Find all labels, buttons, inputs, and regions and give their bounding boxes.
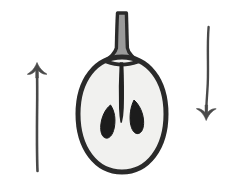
illustration-canvas: A halved apple-like fruit shown in cross… (0, 0, 235, 195)
up-arrow-shaft (37, 68, 38, 171)
fruit-core (120, 63, 124, 122)
fruit-arrows-illustration (0, 0, 235, 195)
